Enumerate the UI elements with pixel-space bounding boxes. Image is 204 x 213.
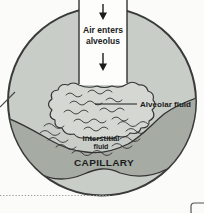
interstitial-fluid-label-line1: Interstitial [83,135,120,142]
capillary-label: CAPILLARY [74,157,134,168]
air-enters-label-line2: alveolus [86,36,120,46]
alveolus-diagram: Air enters alveolus Alveolar fluid Inter… [0,0,204,213]
page-corner-tab [191,203,204,213]
interstitial-fluid-label-line2: fluid [94,143,109,150]
alveolar-fluid-label: Alveolar fluid [140,100,191,109]
alveolar-fluid-blob [49,82,156,139]
alveolus-diagram-figure: Air enters alveolus Alveolar fluid Inter… [0,0,204,213]
air-enters-label-line1: Air enters [83,25,123,35]
